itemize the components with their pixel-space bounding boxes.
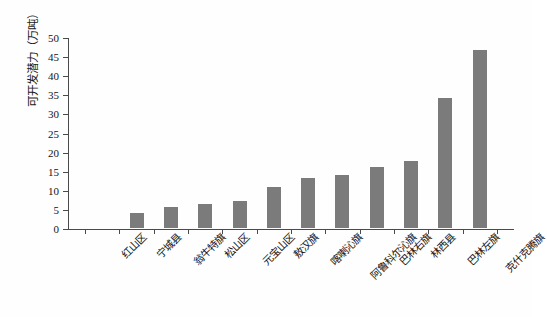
bar bbox=[130, 213, 144, 228]
plot-area: 05101520253035404550 bbox=[68, 38, 514, 229]
x-axis-category-label: 元宝山区 bbox=[259, 231, 296, 268]
y-axis-tick: 45 bbox=[63, 57, 68, 58]
y-axis-tick-label: 45 bbox=[37, 49, 59, 65]
y-axis-tick-label: 25 bbox=[37, 126, 59, 142]
y-axis-tick: 25 bbox=[63, 134, 68, 135]
y-axis-tick: 10 bbox=[63, 191, 68, 192]
bar bbox=[233, 201, 247, 228]
y-axis-tick-label: 35 bbox=[37, 87, 59, 103]
y-axis-tick-label: 0 bbox=[37, 221, 59, 237]
bar bbox=[473, 50, 487, 228]
bar bbox=[301, 178, 315, 228]
y-axis-tick-label: 50 bbox=[37, 30, 59, 46]
y-axis-tick-label: 40 bbox=[37, 68, 59, 84]
x-axis-category-label: 巴林左旗 bbox=[465, 231, 502, 268]
bar bbox=[164, 207, 178, 228]
x-axis-category-label: 林西县 bbox=[428, 231, 458, 261]
y-axis-tick: 50 bbox=[63, 38, 68, 39]
x-axis-category-label: 松山区 bbox=[222, 231, 252, 261]
y-axis-tick-label: 30 bbox=[37, 106, 59, 122]
y-axis-tick-label: 10 bbox=[37, 183, 59, 199]
x-axis-labels: 红山区宁城县翁牛特旗松山区元宝山区敖汉旗喀喇沁旗阿鲁科尔沁旗巴林右旗林西县巴林左… bbox=[68, 231, 514, 317]
x-axis-category-label: 敖汉旗 bbox=[291, 231, 321, 261]
y-axis-tick: 40 bbox=[63, 76, 68, 77]
bar bbox=[335, 175, 349, 228]
y-axis-tick: 20 bbox=[63, 153, 68, 154]
x-axis-category-label: 红山区 bbox=[119, 231, 149, 261]
x-axis-category-label: 克什克腾旗 bbox=[502, 231, 547, 276]
bar bbox=[198, 204, 212, 228]
bar bbox=[404, 161, 418, 228]
y-axis-tick: 35 bbox=[63, 95, 68, 96]
y-axis-tick-label: 5 bbox=[37, 202, 59, 218]
x-axis-category-label: 喀喇沁旗 bbox=[328, 231, 365, 268]
bar bbox=[267, 187, 281, 228]
y-axis-tick: 0 bbox=[63, 229, 68, 230]
y-axis-tick: 30 bbox=[63, 114, 68, 115]
y-axis-line bbox=[68, 38, 69, 230]
y-axis-tick: 15 bbox=[63, 172, 68, 173]
y-axis-tick: 5 bbox=[63, 210, 68, 211]
y-axis-tick-label: 15 bbox=[37, 164, 59, 180]
x-axis-category-label: 宁城县 bbox=[153, 231, 183, 261]
y-axis-tick-label: 20 bbox=[37, 145, 59, 161]
bar bbox=[370, 167, 384, 228]
bar bbox=[438, 98, 452, 228]
